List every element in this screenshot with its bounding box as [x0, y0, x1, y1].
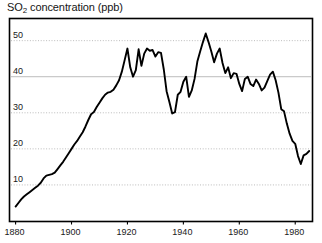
x-tick-label-1920: 1920	[116, 227, 136, 237]
so2-data-series-line	[16, 33, 310, 206]
plot-area	[0, 0, 322, 243]
gridlines	[11, 41, 311, 185]
y-tick-label-20: 20	[13, 138, 23, 148]
x-tick-label-1960: 1960	[228, 227, 248, 237]
plot-frame	[10, 19, 313, 222]
x-tick-label-1900: 1900	[61, 227, 81, 237]
y-tick-label-10: 10	[13, 174, 23, 184]
so2-concentration-line-chart: SO2 concentration (ppb) 1020304050 18801…	[0, 0, 322, 243]
y-tick-label-40: 40	[13, 66, 23, 76]
y-tick-label-50: 50	[13, 30, 23, 40]
x-tick-label-1980: 1980	[284, 227, 304, 237]
x-tick-label-1940: 1940	[172, 227, 192, 237]
x-tick-label-1880: 1880	[5, 227, 25, 237]
y-tick-label-30: 30	[13, 102, 23, 112]
